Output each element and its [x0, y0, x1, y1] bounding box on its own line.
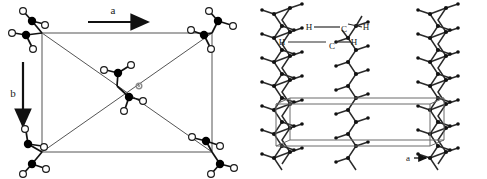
hydrogen-atom — [230, 23, 237, 30]
carbon-atom — [125, 93, 133, 101]
hydrogen-label-upper-left: H — [306, 22, 313, 32]
chain-side-view-svg: H H C H H C — [244, 0, 487, 179]
hydrogen-atom — [20, 8, 27, 15]
hydrogen-atom — [20, 171, 27, 178]
hydrogen-atom — [128, 62, 135, 69]
hydrogen-atom — [231, 165, 238, 172]
hydrogen-atom — [189, 134, 196, 141]
carbon-atom — [114, 69, 122, 77]
hydrogen-atom — [208, 46, 215, 53]
ch2-group-center-upper — [101, 62, 135, 86]
carbon-atom — [216, 160, 224, 168]
carbon-label-lower: C — [329, 41, 335, 51]
hydrogen-atom — [22, 126, 29, 133]
hydrogen-label-lower-right: H — [351, 37, 358, 47]
hydrogen-label-lower-left: H — [279, 37, 286, 47]
chain-right-atom-nodes — [416, 2, 460, 160]
unit-cell-projection-panel: a b — [0, 0, 244, 179]
carbon-atom — [200, 31, 208, 39]
hydrogen-atom — [30, 46, 37, 53]
unit-cell-svg: a b — [0, 0, 244, 179]
crystal-structure-figure: a b — [0, 0, 487, 179]
unit-cell-rectangle — [42, 33, 212, 152]
chain-left-atom-nodes — [260, 2, 304, 160]
hydrogen-atom — [217, 143, 224, 150]
hydrogen-atom — [188, 27, 195, 34]
cell-center-dot — [138, 85, 140, 87]
hydrogen-atom — [41, 144, 48, 151]
carbon-atom — [214, 17, 222, 25]
hydrogen-atom — [208, 171, 215, 178]
hydrogen-atom — [42, 22, 49, 29]
axis-a-label-right: a — [406, 153, 410, 163]
hydrogen-atom — [101, 67, 108, 74]
carbon-atom — [24, 140, 32, 148]
axis-c-label: c — [438, 116, 442, 126]
ch2-group-corner-top-right — [188, 8, 237, 53]
hydrogen-atom — [206, 8, 213, 15]
carbon-label-upper: C — [341, 24, 347, 34]
hydrogen-label-upper-right: H — [363, 22, 370, 32]
axis-b-label: b — [10, 87, 16, 99]
hydrogen-atom — [9, 30, 16, 37]
carbon-atom — [22, 31, 30, 39]
hydrogen-atom — [121, 108, 128, 115]
chain-side-view-panel: H H C H H C — [244, 0, 487, 179]
hydrogen-atom — [140, 98, 147, 105]
hydrogen-atom — [43, 166, 50, 173]
carbon-atom — [28, 160, 36, 168]
ch2-group-center-lower — [117, 86, 146, 114]
axis-a-label: a — [111, 4, 116, 16]
carbon-atom — [202, 137, 210, 145]
carbon-atom — [28, 17, 36, 25]
